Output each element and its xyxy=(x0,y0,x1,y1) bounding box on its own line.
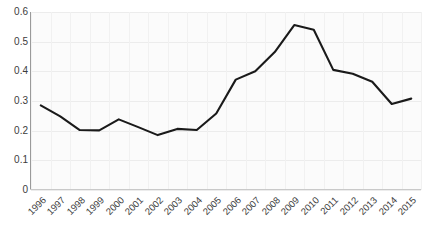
y-tick: 0.4 xyxy=(0,66,28,76)
gridline-vertical xyxy=(51,12,52,190)
y-tick-label: 0 xyxy=(2,185,28,195)
y-tick-label: 0.4 xyxy=(2,66,28,76)
gridline-vertical xyxy=(207,12,208,190)
gridline-vertical xyxy=(421,12,422,190)
gridline-vertical xyxy=(285,12,286,190)
gridline-vertical xyxy=(324,12,325,190)
gridline-vertical xyxy=(226,12,227,190)
y-tick-label: 0.1 xyxy=(2,155,28,165)
gridline-vertical xyxy=(70,12,71,190)
y-tick-label: 0.2 xyxy=(2,126,28,136)
x-axis-line xyxy=(30,189,421,190)
gridline-vertical xyxy=(129,12,130,190)
gridline-horizontal xyxy=(31,190,421,191)
gridline-vertical xyxy=(148,12,149,190)
gridline-vertical xyxy=(109,12,110,190)
gridline-vertical xyxy=(382,12,383,190)
gridline-vertical xyxy=(363,12,364,190)
gridline-vertical xyxy=(187,12,188,190)
gridline-vertical xyxy=(31,12,32,190)
y-tick: 0.1 xyxy=(0,155,28,165)
line-chart: 00.10.20.30.40.50.6 19961997199819992000… xyxy=(0,0,428,234)
y-tick-label: 0.6 xyxy=(2,7,28,17)
gridline-vertical xyxy=(402,12,403,190)
y-tick: 0.3 xyxy=(0,96,28,106)
gridline-vertical xyxy=(343,12,344,190)
y-tick: 0.2 xyxy=(0,126,28,136)
y-tick: 0 xyxy=(0,185,28,195)
y-tick: 0.5 xyxy=(0,37,28,47)
gridline-vertical xyxy=(265,12,266,190)
y-tick-label: 0.3 xyxy=(2,96,28,106)
gridline-vertical xyxy=(246,12,247,190)
gridline-vertical xyxy=(304,12,305,190)
gridline-vertical xyxy=(168,12,169,190)
gridline-vertical xyxy=(90,12,91,190)
y-tick: 0.6 xyxy=(0,7,28,17)
y-tick-label: 0.5 xyxy=(2,37,28,47)
y-axis-line xyxy=(30,12,31,190)
